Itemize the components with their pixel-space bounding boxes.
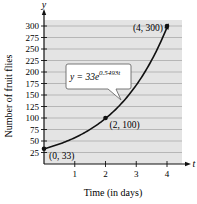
data-point-label: (2, 100) <box>110 120 140 131</box>
y-tick-label: 25 <box>30 148 40 158</box>
data-point-label: (4, 300) <box>133 23 163 34</box>
data-point-marker <box>103 116 108 121</box>
y-tick-label: 100 <box>26 113 40 123</box>
y-axis-title: Number of fruit flies <box>3 54 14 137</box>
chart: 255075100125150175200225250275300 1234 (… <box>0 0 197 204</box>
y-axis-symbol: y <box>41 0 47 10</box>
y-tick-label: 75 <box>30 125 40 135</box>
y-tick-label: 150 <box>26 90 40 100</box>
y-tick-label: 200 <box>26 67 40 77</box>
y-tick-label: 175 <box>26 79 40 89</box>
x-tick-label: 4 <box>165 169 170 179</box>
y-tick-label: 125 <box>26 102 40 112</box>
x-axis-symbol: t <box>193 158 196 169</box>
data-point-label: (0, 33) <box>49 151 74 162</box>
y-tick-label: 50 <box>30 136 40 146</box>
x-axis-arrow-icon <box>185 162 191 166</box>
x-tick-label: 1 <box>73 169 78 179</box>
data-point-marker <box>42 147 47 152</box>
y-tick-label: 275 <box>26 33 40 43</box>
data-point-marker <box>165 24 170 29</box>
y-tick-label: 250 <box>26 44 40 54</box>
y-tick-label: 225 <box>26 56 40 66</box>
x-tick-label: 2 <box>103 169 108 179</box>
x-tick-label: 3 <box>134 169 139 179</box>
y-tick-label: 300 <box>26 21 40 31</box>
x-axis-title: Time (in days) <box>84 187 143 199</box>
